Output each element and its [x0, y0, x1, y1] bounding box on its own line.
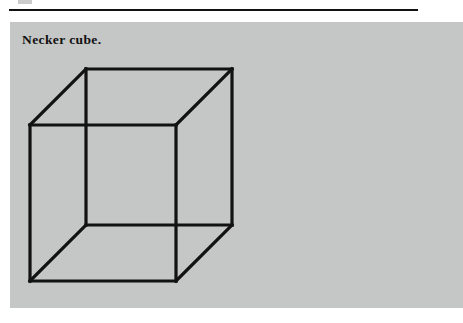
necker-cube-illustration	[10, 22, 463, 308]
page-canvas: Necker cube.	[0, 0, 463, 323]
horizontal-rule	[9, 9, 418, 11]
figure-panel: Necker cube.	[10, 22, 463, 308]
page-edge-artifact	[18, 0, 32, 4]
connector-top-left	[30, 69, 86, 125]
connector-bottom-left	[30, 225, 86, 281]
connector-bottom-right	[176, 225, 232, 281]
figure-caption: Necker cube.	[22, 32, 102, 48]
connector-top-right	[176, 69, 232, 125]
